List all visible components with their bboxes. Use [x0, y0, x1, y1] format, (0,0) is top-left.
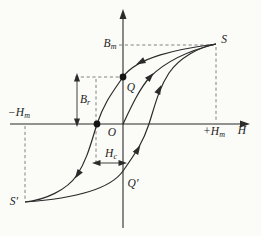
saturation-point-label: S	[221, 34, 227, 46]
negative-saturation-point-label: S′	[10, 196, 18, 208]
x-axis-label: H	[238, 125, 246, 137]
x-min-label: −Hm	[8, 107, 30, 120]
hc-measure-arrow	[92, 160, 127, 166]
origin-label: O	[108, 127, 116, 139]
negative-remanence-point-label: Q′	[128, 178, 139, 190]
initial-magnetization-curve	[123, 44, 216, 124]
remanence-point-label: Q	[127, 82, 135, 94]
ascending-branch-curve	[25, 44, 216, 202]
hysteresis-figure: Bm −Hm +Hm H S S′ Q Q′ O Br Hc	[0, 0, 261, 236]
ascending-lower-direction-arrow	[133, 144, 143, 155]
coercivity-measure-label: Hc	[105, 148, 117, 161]
x-max-label: +Hm	[203, 126, 225, 139]
y-max-label: Bm	[104, 38, 117, 51]
descending-branch-curve	[25, 44, 216, 202]
coercivity-point-dot	[94, 121, 101, 128]
remanence-point-dot	[120, 74, 127, 81]
remanence-measure-label: Br	[80, 94, 90, 107]
b-axis-arrowhead	[120, 9, 127, 19]
